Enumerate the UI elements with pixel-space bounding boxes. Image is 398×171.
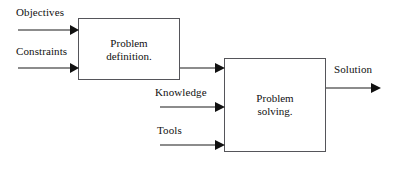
node-problem-definition-label: Problem definition. [78,37,180,62]
arrow-solution [326,83,381,93]
label-tools: Tools [157,124,182,136]
label-knowledge: Knowledge [155,86,207,98]
label-constraints: Constraints [16,45,67,57]
node-problem-solving-label: Problem solving. [224,92,326,117]
flow-diagram: Objectives Constraints Knowledge Tools S… [0,0,398,171]
arrow-definition-to-solving [180,63,225,73]
arrow-objectives [18,25,79,35]
label-solution: Solution [334,63,372,75]
arrow-tools [160,140,225,150]
arrow-constraints [18,63,79,73]
label-objectives: Objectives [16,6,64,18]
arrow-knowledge [160,102,225,112]
